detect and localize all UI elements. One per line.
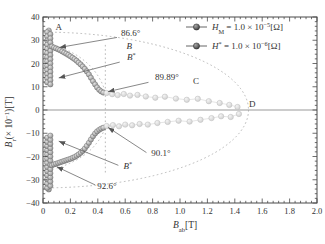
point-B-star-bottom-label: B* — [124, 159, 133, 171]
y-tick-label: 0 — [35, 105, 39, 115]
data-point — [184, 97, 189, 102]
series-upper-cluster — [45, 28, 54, 87]
data-point — [176, 118, 181, 123]
y-tick-labels: 403020100−10−20−30−40 — [26, 12, 39, 208]
series-upper-branch — [49, 44, 106, 95]
angle-92-6-pointer — [57, 167, 95, 185]
data-point — [206, 99, 211, 104]
data-point — [195, 96, 200, 101]
figure-container: 00.20.40.60.81.01.21.41.61.82.0403020100… — [0, 0, 325, 244]
data-point — [198, 117, 203, 122]
angle-92-6-label: 92.6° — [97, 181, 117, 191]
point-A-label: A — [56, 22, 63, 32]
y-tick-label: −30 — [26, 175, 39, 185]
x-tick-label: 0.8 — [147, 206, 158, 216]
data-point — [227, 102, 232, 107]
x-tick-label: 0.4 — [92, 206, 103, 216]
data-point — [228, 114, 233, 119]
data-point — [162, 94, 167, 99]
series-lower-faded — [104, 111, 242, 129]
data-point — [127, 93, 132, 98]
legend-marker — [193, 24, 199, 30]
data-point — [165, 119, 170, 124]
data-point — [129, 123, 134, 128]
x-tick-label: 2.0 — [312, 206, 323, 216]
flux-scatter-chart: 00.20.40.60.81.01.21.41.61.82.0403020100… — [0, 0, 325, 244]
data-point — [115, 92, 120, 97]
y-tick-label: −40 — [26, 198, 39, 208]
data-point — [173, 96, 178, 101]
point-B-label: B — [127, 41, 133, 51]
data-point — [143, 94, 148, 99]
legend-marker — [193, 43, 199, 49]
x-tick-label: 1.4 — [229, 206, 240, 216]
angle-86-6-label: 86.6° — [121, 28, 141, 38]
data-point — [236, 111, 241, 116]
point-D-label: D — [249, 99, 256, 109]
legend: HM = 1.0 × 10−5[Ω]H* = 1.0 × 10−6[Ω] — [186, 21, 283, 52]
data-point — [104, 90, 109, 95]
data-point — [235, 104, 240, 109]
point-C-label: C — [193, 76, 199, 86]
angle-89-89-label: 89.89° — [155, 72, 179, 82]
y-tick-label: 10 — [31, 82, 40, 92]
point-B-star-top-label: B* — [127, 51, 136, 63]
angle-90-1-label: 90.1° — [151, 148, 171, 158]
angle-86-6-pointer — [59, 37, 117, 47]
data-point — [110, 122, 115, 127]
legend-entry-HM: HM = 1.0 × 10−5[Ω] — [186, 21, 283, 35]
data-point — [123, 122, 128, 127]
y-tick-label: 20 — [31, 59, 40, 69]
x-tick-label: 0.2 — [65, 206, 76, 216]
y-tick-label: 30 — [31, 35, 40, 45]
x-tick-labels: 00.20.40.60.81.01.21.41.61.82.0 — [41, 206, 322, 216]
y-tick-label: 40 — [31, 12, 40, 22]
data-point — [153, 95, 158, 100]
data-point — [187, 119, 192, 124]
data-point — [145, 122, 150, 127]
data-point — [135, 92, 140, 97]
data-point — [137, 121, 142, 126]
data-point — [48, 133, 53, 138]
data-point — [121, 91, 126, 96]
angle-89-89-pointer — [108, 82, 148, 91]
x-tick-label: 0.6 — [120, 206, 131, 216]
y-tick-label: −20 — [26, 152, 39, 162]
y-axis-label: Br(× 10−1)[T] — [3, 97, 17, 148]
x-tick-label: 0 — [41, 206, 45, 216]
data-point — [48, 82, 53, 87]
x-tick-label: 1.8 — [284, 206, 295, 216]
series-upper-faded — [104, 90, 240, 109]
data-point — [110, 92, 115, 97]
x-tick-label: 1.0 — [175, 206, 186, 216]
x-axis-label: Bab[T] — [173, 220, 197, 233]
x-tick-label: 1.2 — [202, 206, 213, 216]
legend-label-HM: HM = 1.0 × 10−5[Ω] — [211, 21, 283, 35]
data-point — [217, 100, 222, 105]
data-point — [209, 115, 214, 120]
data-point — [116, 124, 121, 129]
legend-label-Hstar: H* = 1.0 × 10−6[Ω] — [211, 40, 280, 52]
x-tick-label: 1.6 — [257, 206, 268, 216]
data-point — [155, 120, 160, 125]
y-tick-label: −10 — [26, 128, 39, 138]
angle-90-1-pointer — [108, 127, 146, 152]
series-lower-branch — [49, 125, 106, 168]
data-point — [218, 114, 223, 119]
legend-entry-Hstar: H* = 1.0 × 10−6[Ω] — [186, 40, 280, 52]
